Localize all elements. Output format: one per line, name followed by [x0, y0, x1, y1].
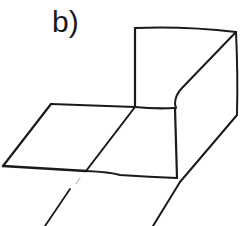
figure-label: b) — [52, 5, 79, 39]
diagram-canvas: b) — [0, 0, 243, 226]
foreground-extension-lines — [45, 178, 180, 226]
left-floor-panel — [3, 104, 135, 171]
folded-surface-sketch — [0, 0, 243, 226]
curved-side-wall — [175, 32, 237, 182]
middle-floor-panel — [86, 107, 177, 178]
back-wall-panel — [135, 28, 236, 108]
